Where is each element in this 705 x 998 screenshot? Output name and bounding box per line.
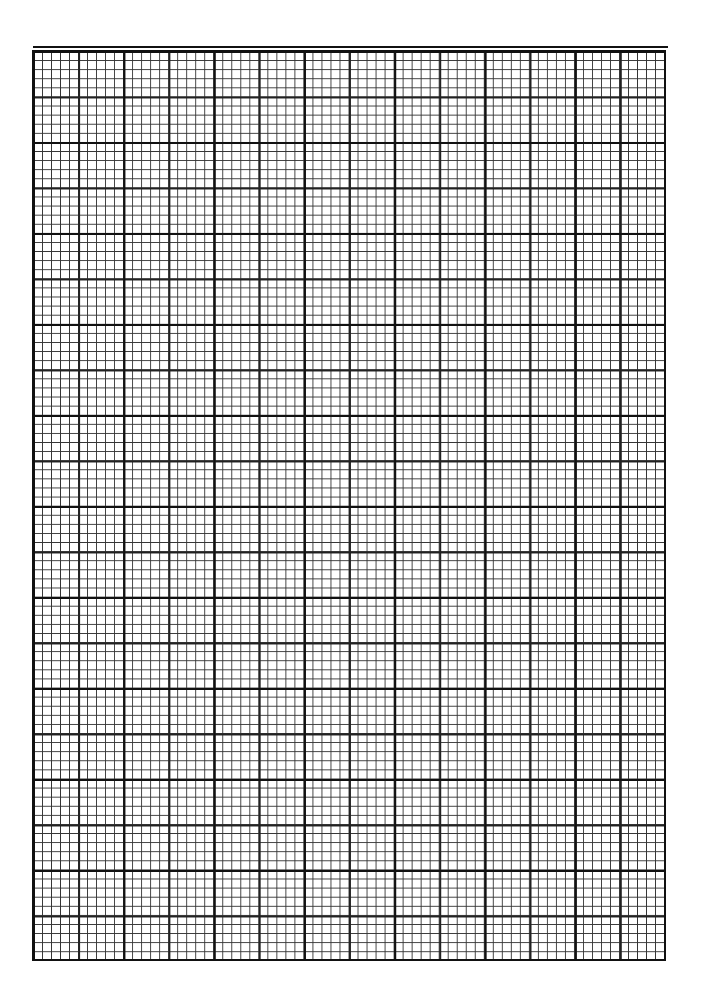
top-rule-line xyxy=(33,46,668,48)
graph-paper-grid xyxy=(32,50,666,961)
